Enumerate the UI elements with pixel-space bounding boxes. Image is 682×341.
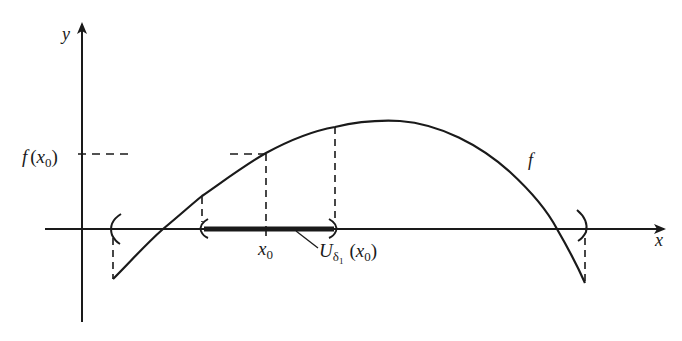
fx0-label: f(x0) [22,146,58,170]
curve-label: f [528,150,536,170]
function-diagram: y x f f(x0) x0 Uδ1(x0) [0,0,682,341]
domain-right-paren [577,210,587,241]
neighborhood-label: Uδ1(x0) [319,240,377,266]
x0-label: x0 [257,238,273,262]
nbhd-leader-line [296,231,318,248]
x-axis-label: x [654,230,663,250]
y-axis-label: y [60,24,70,44]
